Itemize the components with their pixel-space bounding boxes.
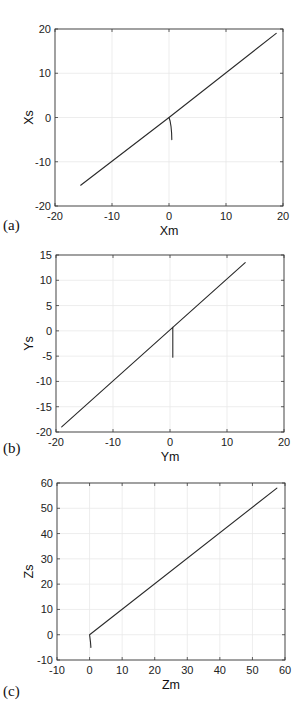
y-tick-label: 0 xyxy=(47,629,53,641)
y-tick-label: 20 xyxy=(41,578,53,590)
x-axis-label: Zm xyxy=(162,678,180,692)
y-tick-label: 10 xyxy=(41,603,53,615)
chart-c: -100102030405060-100102030405060ZmZs xyxy=(0,0,303,718)
figure-panel-c: -100102030405060-100102030405060ZmZs (c) xyxy=(0,0,303,718)
y-tick-label: 40 xyxy=(41,528,53,540)
y-tick-label: 50 xyxy=(41,502,53,514)
x-tick-label: 50 xyxy=(246,664,258,676)
x-tick-label: 10 xyxy=(116,664,128,676)
x-tick-label: 60 xyxy=(279,664,291,676)
panel-label-c: (c) xyxy=(3,683,20,700)
x-tick-label: 0 xyxy=(87,664,93,676)
x-tick-label: 20 xyxy=(149,664,161,676)
y-tick-label: 60 xyxy=(41,477,53,489)
y-tick-label: 30 xyxy=(41,553,53,565)
y-tick-label: -10 xyxy=(37,654,53,666)
data-series xyxy=(90,488,277,647)
series-line xyxy=(90,488,277,647)
x-tick-label: 40 xyxy=(214,664,226,676)
y-axis-label: Zs xyxy=(22,565,36,579)
x-tick-label: 30 xyxy=(181,664,193,676)
